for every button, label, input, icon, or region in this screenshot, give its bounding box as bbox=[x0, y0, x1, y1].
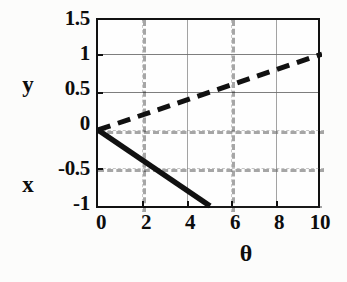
y-tick-label-1: 1 bbox=[38, 41, 90, 66]
x-tick-label-2: 4 bbox=[170, 210, 210, 235]
x-tick-label-5: 10 bbox=[300, 210, 340, 235]
x-tick-label-1: 2 bbox=[126, 210, 166, 235]
x-tick-label-4: 8 bbox=[259, 210, 299, 235]
y-tick-label-4: -0.5 bbox=[38, 156, 90, 181]
y-tick-label-3: 0 bbox=[38, 111, 90, 136]
x-axis-title: θ bbox=[232, 240, 260, 267]
data-curves bbox=[98, 20, 322, 210]
plot-area bbox=[96, 18, 320, 208]
x-tick-label-3: 6 bbox=[215, 210, 255, 235]
figure-chart: y x θ 1.5 1 0.5 0 -0.5 -1 0 2 4 6 8 10 bbox=[0, 0, 347, 282]
x-tick-label-0: 0 bbox=[81, 210, 121, 235]
series-y-dashed-line bbox=[98, 54, 322, 130]
series-x-solid-line bbox=[98, 130, 210, 206]
y-tick-label-0: 1.5 bbox=[38, 6, 90, 31]
y-tick-label-2: 0.5 bbox=[38, 76, 90, 101]
